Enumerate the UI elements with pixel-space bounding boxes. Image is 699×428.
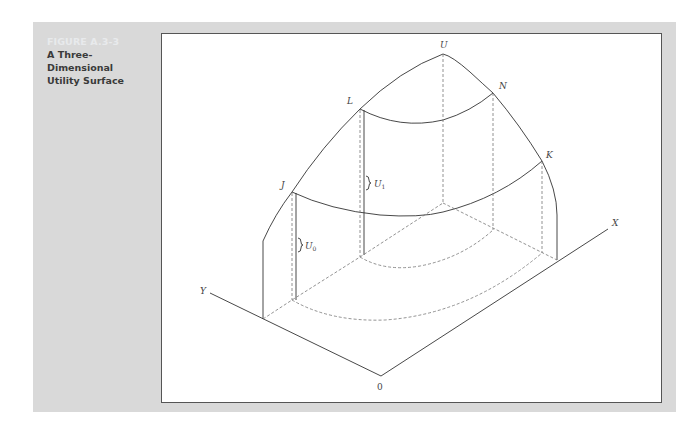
label-point-J: J — [279, 180, 286, 190]
brace-u0 — [298, 238, 303, 252]
y-axis — [210, 293, 381, 376]
projected-curve-outer — [292, 253, 542, 320]
brace-u1 — [366, 176, 371, 190]
label-point-K: K — [545, 150, 554, 160]
label-U1: U1 — [374, 179, 385, 190]
dashed-ground-right — [443, 203, 557, 260]
surface-left-edge — [263, 54, 443, 319]
label-point-N: N — [498, 81, 508, 91]
utility-surface-diagram: U L N J K U1 U0 X Y 0 — [0, 0, 699, 428]
x-axis — [381, 229, 608, 376]
label-apex-U: U — [440, 40, 448, 50]
label-U0: U0 — [305, 241, 317, 252]
dashed-ground-diagonal — [263, 203, 443, 319]
label-axis-X: X — [611, 218, 619, 228]
label-point-L: L — [346, 96, 353, 106]
contour-L-N — [360, 93, 493, 123]
contour-J-K — [292, 161, 542, 216]
label-axis-Y: Y — [200, 286, 207, 296]
label-origin: 0 — [377, 382, 383, 392]
projected-curve-inner — [360, 230, 493, 268]
